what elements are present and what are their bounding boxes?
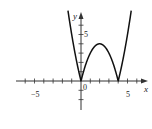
graph-svg: y x 0 −5 5 5: [0, 0, 152, 129]
x-axis-label: x: [143, 84, 148, 94]
y-tick-label-5: 5: [84, 30, 88, 39]
function-curve: [68, 11, 131, 81]
x-tick-label-5: 5: [126, 90, 130, 99]
x-axis-arrow-icon: [141, 79, 148, 84]
y-axis-arrow-icon: [79, 12, 84, 19]
x-tick-label-neg5: −5: [31, 90, 40, 99]
y-axis-label: y: [72, 11, 77, 21]
function-graph: y x 0 −5 5 5: [0, 0, 152, 129]
origin-label: 0: [83, 83, 87, 92]
